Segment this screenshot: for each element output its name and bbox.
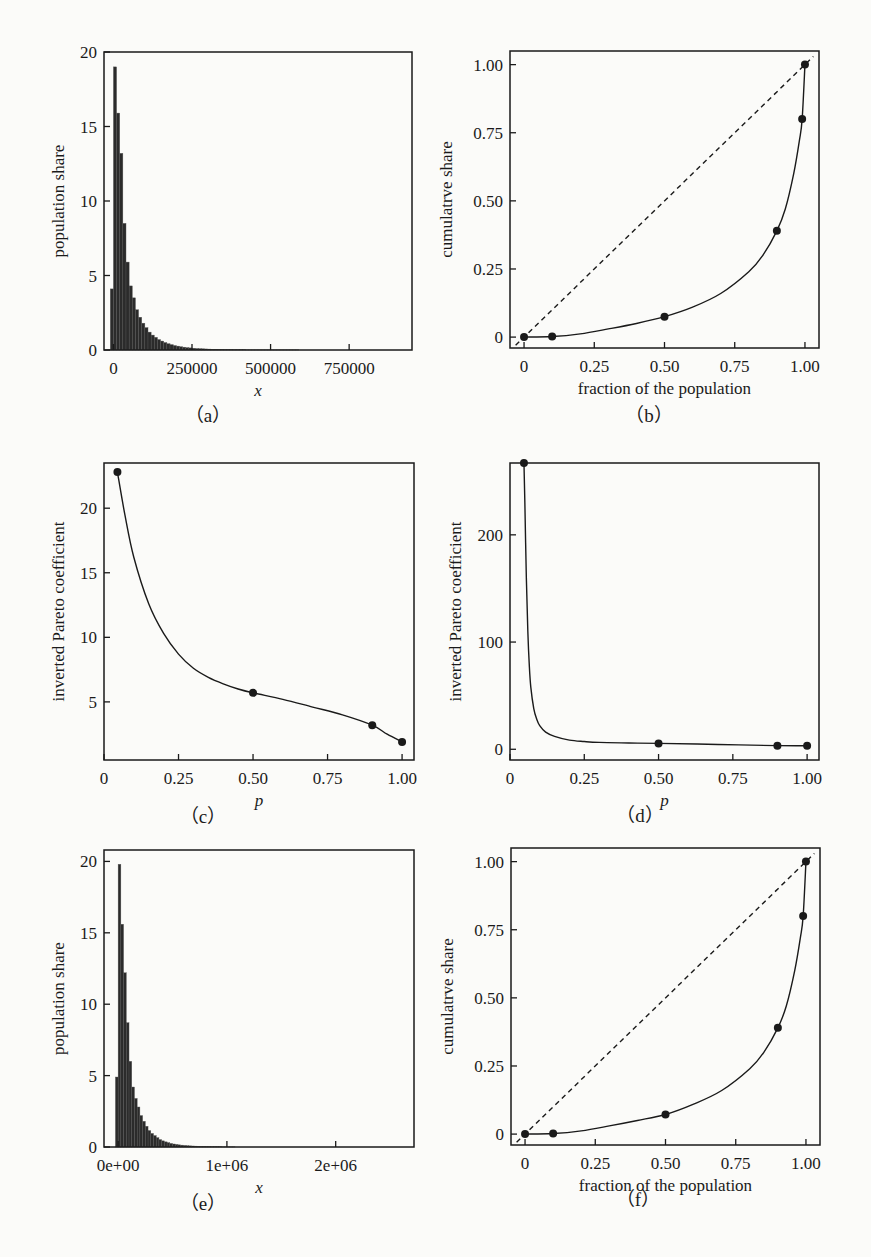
data-point xyxy=(661,313,669,321)
y-tick-label: 0.75 xyxy=(474,921,504,940)
histogram-bars xyxy=(115,864,235,1147)
y-tick-label: 10 xyxy=(80,628,97,647)
x-tick-label: 1.00 xyxy=(791,1154,821,1173)
y-tick-label: 0 xyxy=(89,341,98,360)
x-tick-label: 0.75 xyxy=(721,1154,751,1173)
x-tick-label: 0 xyxy=(521,1154,530,1173)
data-point xyxy=(548,333,556,341)
x-axis-label: p xyxy=(254,791,264,810)
x-tick-label: 750000 xyxy=(324,359,375,378)
data-point xyxy=(774,1024,782,1032)
chart-panel-a: 025000050000075000005101520xpopulation s… xyxy=(104,52,412,350)
plot-frame xyxy=(510,51,819,348)
plot-frame xyxy=(510,463,819,760)
y-axis-label: population share xyxy=(49,145,68,258)
x-tick-label: 1e+06 xyxy=(206,1156,249,1175)
y-tick-label: 0 xyxy=(89,1138,98,1157)
y-axis-label: population share xyxy=(49,942,68,1055)
y-tick-label: 10 xyxy=(80,995,97,1014)
x-tick-label: 0 xyxy=(506,769,515,788)
chart-a-svg: 025000050000075000005101520xpopulation s… xyxy=(104,52,412,350)
data-point xyxy=(773,742,781,750)
data-point xyxy=(773,227,781,235)
y-tick-label: 0.25 xyxy=(474,1057,504,1076)
x-tick-label: 0.50 xyxy=(651,1154,681,1173)
y-tick-label: 10 xyxy=(80,192,97,211)
y-axis-label: cumulatrve share xyxy=(437,141,456,258)
y-tick-label: 0 xyxy=(495,328,504,347)
x-tick-label: 0 xyxy=(520,357,529,376)
x-tick-label: 0.25 xyxy=(579,357,609,376)
data-point xyxy=(799,912,807,920)
y-tick-label: 0.50 xyxy=(474,989,504,1008)
data-point xyxy=(655,739,663,747)
y-tick-label: 100 xyxy=(478,633,504,652)
y-axis-label: inverted Pareto coefficient xyxy=(49,521,68,701)
chart-d-svg: 00.250.500.751.000100200pinverted Pareto… xyxy=(510,463,819,760)
x-tick-label: 0.25 xyxy=(569,769,599,788)
chart-e-svg: 0e+001e+062e+0605101520xpopulation share xyxy=(104,850,414,1147)
curve-line xyxy=(117,472,402,742)
x-tick-label: 0.50 xyxy=(238,769,268,788)
caption-b: （b） xyxy=(609,400,689,427)
x-tick-label: 250000 xyxy=(167,359,218,378)
y-tick-label: 20 xyxy=(80,852,97,871)
equality-line xyxy=(517,853,815,1142)
y-tick-label: 0 xyxy=(495,740,504,759)
data-point xyxy=(249,689,257,697)
x-tick-label: 1.00 xyxy=(387,769,417,788)
chart-f-svg: 00.250.500.751.0000.250.500.751.00fracti… xyxy=(511,848,820,1145)
x-tick-label: 500000 xyxy=(245,359,296,378)
x-tick-label: 0.50 xyxy=(644,769,674,788)
x-axis-label: x xyxy=(254,1178,263,1197)
x-tick-label: 0.25 xyxy=(580,1154,610,1173)
chart-c-svg: 00.250.500.751.005101520pinverted Pareto… xyxy=(104,463,414,760)
x-tick-label: 0 xyxy=(100,769,109,788)
plot-frame xyxy=(104,850,414,1147)
caption-d: （d） xyxy=(600,800,680,827)
histogram-bars xyxy=(110,67,299,350)
x-axis-label: fraction of the population xyxy=(578,379,752,398)
caption-a: （a） xyxy=(168,400,248,427)
y-tick-label: 15 xyxy=(80,118,97,137)
data-point xyxy=(801,61,809,69)
chart-b-svg: 00.250.500.751.0000.250.500.751.00fracti… xyxy=(510,51,819,348)
data-point xyxy=(549,1130,557,1138)
data-point xyxy=(798,115,806,123)
x-tick-label: 0.75 xyxy=(718,769,748,788)
y-tick-label: 5 xyxy=(89,1067,98,1086)
curve-line xyxy=(524,463,807,746)
data-point xyxy=(368,721,376,729)
plot-frame xyxy=(511,848,820,1145)
y-tick-label: 15 xyxy=(80,924,97,943)
y-tick-label: 1.00 xyxy=(474,853,504,872)
x-tick-label: 2e+06 xyxy=(314,1156,357,1175)
y-tick-label: 200 xyxy=(478,526,504,545)
y-tick-label: 20 xyxy=(80,43,97,62)
plot-frame xyxy=(104,52,412,350)
chart-panel-e: 0e+001e+062e+0605101520xpopulation share xyxy=(104,850,414,1147)
y-tick-label: 5 xyxy=(89,693,98,712)
x-axis-label: x xyxy=(253,381,262,400)
data-point xyxy=(802,858,810,866)
equality-line xyxy=(516,56,814,345)
y-axis-label: cumulatrve share xyxy=(438,938,457,1055)
caption-c: （c） xyxy=(163,801,243,828)
x-tick-label: 0 xyxy=(109,359,118,378)
x-tick-label: 0.75 xyxy=(720,357,750,376)
y-tick-label: 20 xyxy=(80,499,97,518)
x-tick-label: 0e+00 xyxy=(97,1156,140,1175)
data-point xyxy=(803,742,811,750)
y-tick-label: 0.50 xyxy=(473,192,503,211)
y-tick-label: 0.75 xyxy=(473,124,503,143)
caption-e: （e） xyxy=(163,1188,243,1215)
data-point xyxy=(520,333,528,341)
data-point xyxy=(398,738,406,746)
y-axis-label: inverted Pareto coefficient xyxy=(446,521,465,701)
x-tick-label: 0.50 xyxy=(650,357,680,376)
y-tick-label: 1.00 xyxy=(473,56,503,75)
plot-frame xyxy=(104,463,414,760)
x-tick-label: 0.25 xyxy=(164,769,194,788)
chart-panel-b: 00.250.500.751.0000.250.500.751.00fracti… xyxy=(510,51,819,348)
data-point xyxy=(521,1130,529,1138)
